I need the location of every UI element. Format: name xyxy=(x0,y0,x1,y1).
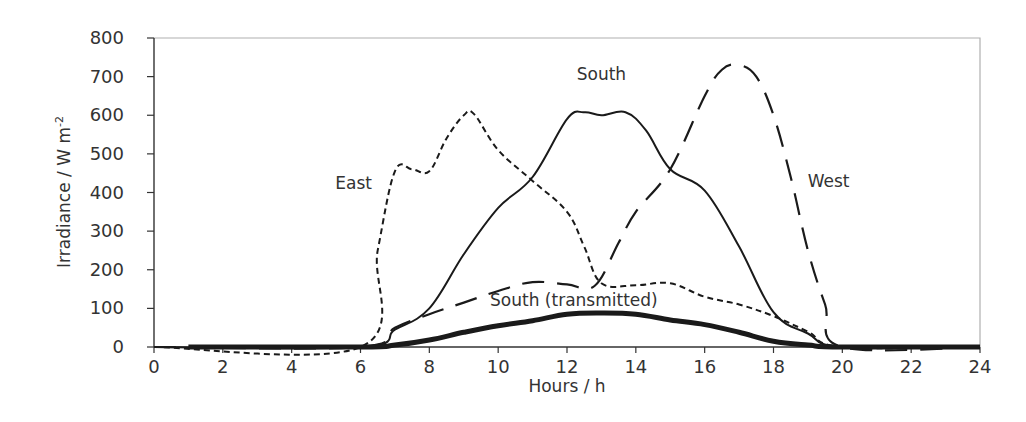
y-axis-title: Irradiance / W m-2 xyxy=(53,116,74,268)
y-tick-label: 700 xyxy=(90,66,124,87)
y-tick-label: 600 xyxy=(90,104,124,125)
y-tick-label: 200 xyxy=(90,259,124,280)
series-label-west: West xyxy=(808,171,850,191)
series-layer xyxy=(154,64,980,354)
x-tick-label: 10 xyxy=(487,356,510,377)
y-tick-label: 0 xyxy=(113,336,124,357)
y-axis-title-superscript: -2 xyxy=(53,116,66,127)
y-tick-label: 300 xyxy=(90,220,124,241)
y-tick-label: 500 xyxy=(90,143,124,164)
series-label-east: East xyxy=(335,173,372,193)
y-tick-label: 800 xyxy=(90,27,124,48)
y-axis: 0100200300400500600700800 xyxy=(90,27,154,357)
series-label-south-transmitted: South (transmitted) xyxy=(490,290,658,310)
x-tick-label: 0 xyxy=(148,356,159,377)
x-tick-label: 22 xyxy=(900,356,923,377)
x-tick-label: 4 xyxy=(286,356,297,377)
x-axis: 024681012141618202224 xyxy=(148,347,991,377)
x-tick-label: 20 xyxy=(831,356,854,377)
y-axis-title-main: Irradiance / W m xyxy=(54,127,74,268)
irradiance-chart: 0100200300400500600700800 02468101214161… xyxy=(0,0,1026,422)
y-tick-label: 400 xyxy=(90,182,124,203)
x-tick-label: 12 xyxy=(556,356,579,377)
x-tick-label: 16 xyxy=(693,356,716,377)
x-tick-label: 8 xyxy=(424,356,435,377)
series-east-line xyxy=(154,111,980,355)
x-tick-label: 6 xyxy=(355,356,366,377)
series-south-transmitted-line xyxy=(188,313,980,347)
x-axis-title: Hours / h xyxy=(528,376,605,396)
x-tick-label: 14 xyxy=(624,356,647,377)
y-tick-label: 100 xyxy=(90,297,124,318)
x-tick-label: 2 xyxy=(217,356,228,377)
x-tick-label: 18 xyxy=(762,356,785,377)
series-label-south: South xyxy=(577,64,626,84)
x-tick-label: 24 xyxy=(969,356,992,377)
series-labels: SouthEastWestSouth (transmitted) xyxy=(335,64,850,310)
